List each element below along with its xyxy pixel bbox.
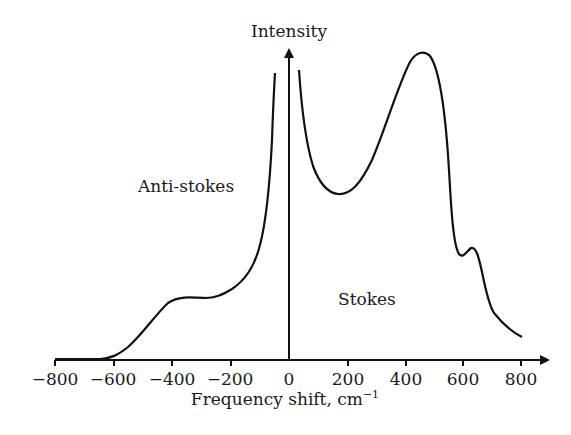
- anti-stokes-curve: [55, 73, 275, 359]
- tick-label: 400: [390, 369, 422, 389]
- tick-label: 600: [447, 369, 479, 389]
- anti-stokes-label: Anti-stokes: [137, 176, 234, 196]
- tick-label: −400: [149, 369, 196, 389]
- tick-label: 800: [505, 369, 537, 389]
- stokes-label: Stokes: [338, 289, 396, 309]
- tick-label: 0: [284, 369, 295, 389]
- tick-label: −200: [207, 369, 254, 389]
- tick-label: 200: [332, 369, 364, 389]
- tick-label: −600: [90, 369, 137, 389]
- x-axis-tick-labels: −800 −600 −400 −200 0 200 400 600 800: [32, 369, 538, 389]
- x-axis-title: Frequency shift, cm−1: [191, 388, 379, 409]
- y-axis-title: Intensity: [251, 21, 327, 41]
- stokes-curve: [299, 53, 522, 337]
- tick-label: −800: [32, 369, 79, 389]
- raman-spectrum-chart: −800 −600 −400 −200 0 200 400 600 800 Fr…: [0, 0, 571, 435]
